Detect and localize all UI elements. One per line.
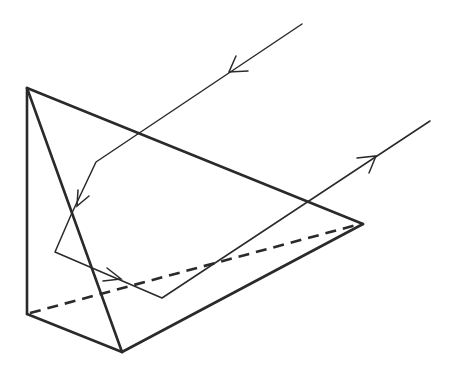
edge-bottom-left-bottom-front	[27, 314, 122, 352]
edge-apex-bottom-front	[27, 88, 122, 352]
prism-ray-diagram	[0, 0, 456, 373]
edge-bottom-front-right	[122, 224, 363, 352]
prism	[27, 88, 363, 352]
incident-arrow-icon	[229, 56, 248, 72]
